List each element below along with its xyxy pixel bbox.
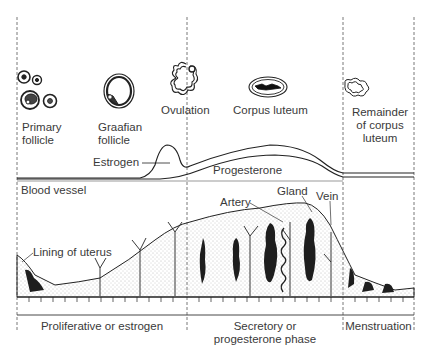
remainder-corpus-luteum-icon bbox=[345, 78, 369, 96]
graafian-follicle-label: Graafianfollicle bbox=[98, 121, 142, 147]
menstrual-cycle-diagram bbox=[0, 0, 427, 359]
phase-secretory: Secretory orprogesterone phase bbox=[187, 320, 343, 346]
graafian-follicle-icon bbox=[104, 74, 134, 108]
remainder-corpus-luteum-label: Remainderof corpusluteum bbox=[349, 106, 411, 145]
phase-proliferative: Proliferative or estrogen bbox=[17, 320, 187, 333]
ovulation-label: Ovulation bbox=[161, 104, 210, 117]
vein-label: Vein bbox=[316, 190, 338, 203]
primary-follicle-icon bbox=[18, 71, 57, 109]
progesterone-label: Progesterone bbox=[213, 164, 282, 177]
ovulation-icon bbox=[171, 62, 198, 94]
phase-menstruation: Menstruation bbox=[343, 320, 414, 333]
estrogen-label: Estrogen bbox=[93, 156, 139, 169]
primary-follicle-label: Primaryfollicle bbox=[22, 121, 62, 147]
blood-vessel-label: Blood vessel bbox=[21, 184, 86, 197]
artery-label: Artery bbox=[220, 196, 251, 209]
corpus-luteum-label: Corpus luteum bbox=[233, 104, 308, 117]
lining-of-uterus-label: Lining of uterus bbox=[33, 246, 112, 259]
gland-label: Gland bbox=[277, 185, 308, 198]
corpus-luteum-icon bbox=[249, 77, 287, 97]
